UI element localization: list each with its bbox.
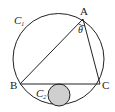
label-c1: C1 bbox=[14, 14, 24, 27]
segment-ca bbox=[83, 19, 100, 84]
segment-ab bbox=[20, 19, 83, 84]
label-a: A bbox=[80, 5, 88, 17]
label-c: C bbox=[102, 79, 109, 91]
figure-canvas: A B C θ C1 C2 bbox=[0, 0, 115, 112]
geometry-figure: A B C θ C1 C2 bbox=[0, 0, 115, 112]
label-c2: C2 bbox=[36, 87, 46, 100]
circle-c2 bbox=[48, 84, 70, 106]
label-theta: θ bbox=[78, 24, 83, 35]
label-b: B bbox=[10, 79, 17, 91]
